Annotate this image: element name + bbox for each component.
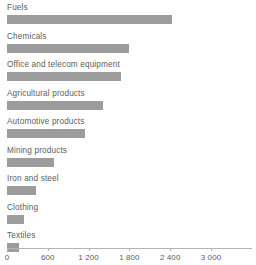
x-axis: 06001 2001 8002 4003 000: [0, 248, 256, 265]
bar-group: Automotive products: [0, 116, 256, 145]
bar: [7, 129, 85, 138]
bar: [7, 186, 36, 195]
x-axis-tick-label: 1 800: [119, 253, 140, 263]
x-axis-tick-label: 600: [41, 253, 55, 263]
x-axis-tick-mark: [7, 248, 8, 251]
x-axis-tick-label: 1 200: [78, 253, 99, 263]
bar-group: Fuels: [0, 2, 256, 31]
x-axis-tick-mark: [211, 248, 212, 251]
bar: [7, 215, 24, 224]
bar-group: Chemicals: [0, 31, 256, 60]
bar-group: Iron and steel: [0, 173, 256, 202]
plot-area: FuelsChemicalsOffice and telecom equipme…: [0, 0, 256, 248]
bar-group: Agricultural products: [0, 88, 256, 117]
x-axis-tick-mark: [129, 248, 130, 251]
x-axis-tick-label: 0: [5, 253, 10, 263]
bar: [7, 158, 54, 167]
bar-chart: FuelsChemicalsOffice and telecom equipme…: [0, 0, 256, 265]
bar-category-label: Clothing: [7, 202, 38, 213]
x-axis-tick-mark: [170, 248, 171, 251]
bar: [7, 72, 121, 81]
bar-category-label: Textiles: [7, 230, 36, 241]
bar-category-label: Fuels: [7, 2, 28, 13]
x-axis-tick-mark: [48, 248, 49, 251]
bar-category-label: Agricultural products: [7, 88, 85, 99]
bar-group: Office and telecom equipment: [0, 59, 256, 88]
bar-group: Clothing: [0, 202, 256, 231]
bar-category-label: Chemicals: [7, 31, 47, 42]
bar-group: Mining products: [0, 145, 256, 174]
bar-category-label: Office and telecom equipment: [7, 59, 120, 70]
bar: [7, 44, 129, 53]
bar-category-label: Automotive products: [7, 116, 85, 127]
bar-category-label: Iron and steel: [7, 173, 59, 184]
x-axis-tick-label: 3 000: [201, 253, 222, 263]
bar-category-label: Mining products: [7, 145, 67, 156]
bar: [7, 101, 103, 110]
x-axis-tick-mark: [89, 248, 90, 251]
x-axis-tick-label: 2 400: [160, 253, 181, 263]
bar: [7, 15, 172, 24]
